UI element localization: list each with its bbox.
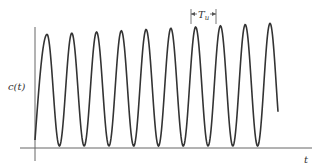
period-annotation: Tu <box>191 9 216 24</box>
oscillation-curve <box>35 23 278 146</box>
period-label: Tu <box>198 9 210 22</box>
y-axis-label: c(t) <box>8 81 26 92</box>
x-axis-label: t <box>304 154 309 165</box>
oscillation-diagram: Tu c(t) t <box>0 0 326 167</box>
